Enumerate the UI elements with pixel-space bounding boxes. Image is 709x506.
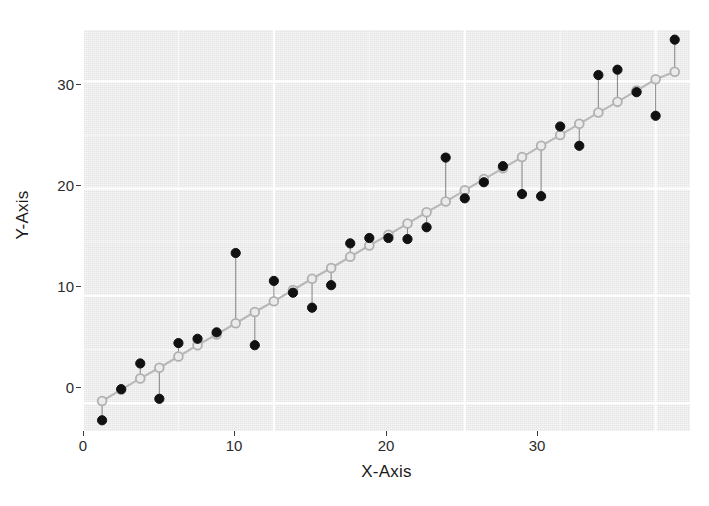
plot-surface — [83, 30, 690, 431]
y-tick-mark — [76, 387, 81, 388]
y-tick-label: 10 — [40, 278, 74, 295]
y-tick-mark — [76, 84, 81, 85]
x-axis-tick-labels: 0 10 20 30 — [0, 437, 709, 459]
x-tick-label: 10 — [226, 437, 243, 454]
plot-panel — [83, 30, 690, 431]
x-tick-mark — [386, 431, 387, 436]
x-tick-label: 20 — [378, 437, 395, 454]
residual-scatter-chart: Y-Axis 0 10 20 30 0 10 20 30 X-Axis — [0, 0, 709, 506]
x-tick-mark — [234, 431, 235, 436]
y-axis-title-text: Y-Axis — [13, 191, 33, 240]
y-tick-label: 20 — [40, 177, 74, 194]
y-axis-tick-labels: 0 10 20 30 — [40, 0, 74, 430]
x-tick-mark — [83, 431, 84, 436]
x-axis-title: X-Axis — [83, 462, 690, 482]
y-tick-mark — [76, 286, 81, 287]
x-tick-label: 30 — [529, 437, 546, 454]
y-tick-label: 0 — [40, 379, 74, 396]
x-tick-mark — [537, 431, 538, 436]
y-tick-mark — [76, 185, 81, 186]
x-tick-label: 0 — [79, 437, 87, 454]
y-tick-label: 30 — [40, 76, 74, 93]
